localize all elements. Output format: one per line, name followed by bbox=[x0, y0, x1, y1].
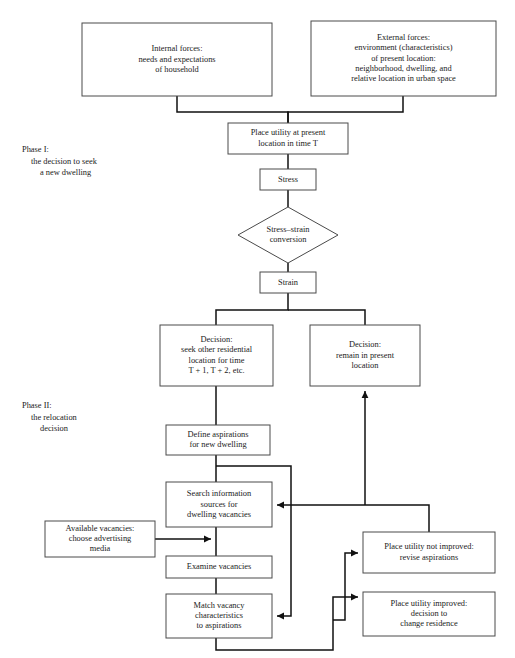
arrowhead bbox=[204, 536, 211, 543]
node-label: Stress–strainconversion bbox=[267, 225, 311, 244]
connector-strain-split bbox=[216, 293, 288, 325]
arrowhead bbox=[277, 613, 284, 620]
arrowhead bbox=[351, 550, 358, 557]
connector-improved-to-remain bbox=[362, 391, 369, 505]
connector-available-to-search-column bbox=[155, 536, 211, 543]
node-label: Stress bbox=[278, 174, 298, 183]
connector-line bbox=[216, 293, 288, 325]
node-stress-strain-conversion[interactable]: Stress–strainconversion bbox=[238, 207, 338, 263]
connector-line bbox=[277, 505, 429, 532]
node-label: Examine vacancies bbox=[187, 562, 251, 571]
phase-label-phase-1: Phase I:the decision to seeka new dwelli… bbox=[22, 145, 98, 177]
phase-layer: Phase I:the decision to seeka new dwelli… bbox=[22, 145, 98, 433]
node-match-vacancy[interactable]: Match vacancycharacteristicsto aspiratio… bbox=[166, 594, 272, 638]
connector-line bbox=[288, 96, 403, 123]
node-strain[interactable]: Strain bbox=[260, 272, 316, 293]
flowchart-canvas: Internal forces:needs and expectationsof… bbox=[0, 0, 515, 658]
phase-label-phase-2: Phase II:the relocationdecision bbox=[22, 401, 78, 433]
node-stress[interactable]: Stress bbox=[260, 169, 316, 190]
node-label: Define aspirationsfor new dwelling bbox=[187, 430, 248, 449]
arrowhead bbox=[277, 502, 284, 509]
node-available-vacancies[interactable]: Available vacancies:choose advertisingme… bbox=[45, 521, 155, 557]
connector-strain-to-remain bbox=[288, 310, 365, 325]
node-search-information[interactable]: Search informationsources fordwelling va… bbox=[166, 482, 272, 527]
node-decision-remain[interactable]: Decision:remain in presentlocation bbox=[310, 325, 420, 386]
connector-external-to-place-utility bbox=[288, 96, 403, 123]
node-decision-seek-other[interactable]: Decision:seek other residentiallocation … bbox=[160, 325, 273, 386]
node-label: Strain bbox=[278, 277, 299, 286]
arrowhead bbox=[362, 391, 369, 398]
node-place-utility-present[interactable]: Place utility at presentlocation in time… bbox=[228, 123, 348, 154]
node-label: Match vacancycharacteristicsto aspiratio… bbox=[194, 601, 246, 630]
connector-line bbox=[177, 96, 288, 123]
connector-internal-to-place-utility bbox=[177, 96, 288, 123]
connector-line bbox=[333, 553, 358, 620]
arrowhead bbox=[351, 594, 358, 601]
node-place-utility-improved[interactable]: Place utility improved:decision tochange… bbox=[363, 592, 495, 636]
node-place-utility-not-improved[interactable]: Place utility not improved:revise aspira… bbox=[363, 532, 495, 573]
connector-not-improved-back-to-search bbox=[277, 502, 429, 532]
node-internal-forces[interactable]: Internal forces:needs and expectationsof… bbox=[82, 23, 272, 96]
connector-line bbox=[288, 310, 365, 325]
node-label: Place utility at presentlocation in time… bbox=[251, 128, 326, 147]
node-layer: Internal forces:needs and expectationsof… bbox=[45, 21, 496, 638]
node-define-aspirations[interactable]: Define aspirationsfor new dwelling bbox=[166, 425, 270, 455]
node-external-forces[interactable]: External forces:environment (characteris… bbox=[311, 21, 496, 96]
node-examine-vacancies[interactable]: Examine vacancies bbox=[166, 556, 272, 578]
connector-match-bottom-loop-upper bbox=[333, 550, 358, 620]
flowchart-page: Internal forces:needs and expectationsof… bbox=[0, 0, 515, 658]
